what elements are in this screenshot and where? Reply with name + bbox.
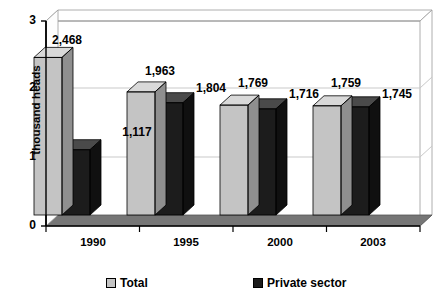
- bar-2000-total: [220, 95, 259, 215]
- data-label-1990-private-sector: 1,117: [110, 125, 164, 139]
- legend-item-private-sector: Private sector: [253, 277, 346, 289]
- x-tick-label-1995: 1995: [151, 236, 221, 248]
- y-tick-label-3: 3: [14, 13, 36, 27]
- legend-label-private-sector: Private sector: [267, 277, 346, 289]
- y-tick-label-2: 2: [14, 80, 36, 94]
- data-label-2000-total: 1,769: [226, 76, 280, 90]
- data-label-1995-total: 1,963: [133, 64, 187, 78]
- chart-floor: [46, 215, 432, 226]
- legend-label-total: Total: [120, 277, 148, 289]
- bar-chart: thousand heads 3 2 1 0 1990 1995 2000 20…: [0, 0, 447, 306]
- y-tick-label-1: 1: [14, 149, 36, 163]
- chart-right-wall: [420, 10, 432, 226]
- data-label-2003-private-sector: 1,745: [370, 87, 424, 101]
- bar-2003-total: [313, 96, 352, 215]
- x-tick-label-2003: 2003: [338, 236, 408, 248]
- data-label-1990-total: 2,468: [40, 33, 94, 47]
- data-label-2003-total: 1,759: [319, 76, 373, 90]
- legend-swatch-total-icon: [106, 278, 116, 288]
- x-tick-label-2000: 2000: [245, 236, 315, 248]
- chart-ceiling: [46, 10, 432, 21]
- legend: Total Private sector: [0, 272, 447, 298]
- y-tick-label-0: 0: [14, 218, 36, 232]
- x-axis-ticks: [46, 226, 420, 232]
- legend-swatch-private-sector-icon: [253, 278, 263, 288]
- y-axis-title: thousand heads: [30, 30, 42, 190]
- x-tick-label-1990: 1990: [58, 236, 128, 248]
- legend-item-total: Total: [106, 277, 148, 289]
- bar-1995-total: [127, 82, 166, 215]
